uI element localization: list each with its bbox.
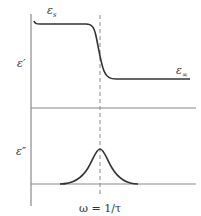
epsilon-infinity-label: ε∞	[176, 64, 188, 79]
epsilon-double-prime-curve	[60, 149, 138, 184]
epsilon-prime-curve	[34, 21, 190, 79]
epsilon-prime-label: ε′	[17, 57, 26, 70]
epsilon-s-label: εs	[47, 4, 57, 19]
debye-relaxation-diagram: εs ε′ ε∞ ε″ ω = 1/τ	[0, 0, 201, 216]
epsilon-double-prime-label: ε″	[16, 145, 27, 158]
omega-equals-inverse-tau-label: ω = 1/τ	[79, 202, 121, 215]
